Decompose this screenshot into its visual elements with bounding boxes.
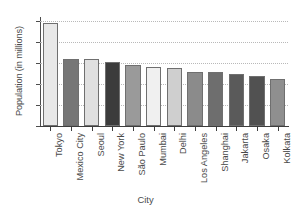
x-tick-mark: [71, 126, 72, 131]
y-tick-mark: [36, 105, 40, 106]
x-tick-label: São Paulo: [137, 133, 147, 175]
bar[interactable]: [187, 72, 202, 126]
gridline: [40, 42, 288, 43]
bar[interactable]: [229, 74, 244, 127]
plot-area: [40, 18, 288, 126]
bar[interactable]: [63, 59, 78, 127]
x-tick-label: Shanghai: [220, 133, 230, 172]
x-axis-line: [40, 126, 289, 127]
x-tick-label: Jakarta: [240, 133, 250, 163]
x-tick-label: Seoul: [96, 133, 106, 157]
bar[interactable]: [105, 62, 120, 126]
x-tick-label: Mexico City: [75, 133, 85, 180]
y-tick-mark: [36, 84, 40, 85]
x-tick-mark: [154, 126, 155, 131]
x-tick-mark: [257, 126, 258, 131]
gridline: [40, 21, 288, 22]
bar[interactable]: [43, 23, 58, 127]
y-tick-mark: [36, 21, 40, 22]
bar[interactable]: [270, 79, 285, 126]
x-axis-title: City: [0, 194, 291, 205]
y-tick-mark: [36, 42, 40, 43]
bar[interactable]: [167, 68, 182, 126]
x-tick-label: Delhi: [178, 133, 188, 154]
bar[interactable]: [146, 67, 161, 126]
y-tick-mark: [36, 126, 40, 127]
x-tick-label: Los Angeles: [199, 133, 209, 183]
x-tick-mark: [236, 126, 237, 131]
x-tick-mark: [92, 126, 93, 131]
x-tick-label: New York: [116, 133, 126, 172]
x-tick-mark: [195, 126, 196, 131]
bar[interactable]: [249, 76, 264, 126]
x-tick-label: Kolkata: [282, 133, 291, 164]
bar[interactable]: [208, 72, 223, 126]
x-tick-mark: [216, 126, 217, 131]
x-tick-label: Osaka: [261, 133, 271, 160]
bar-chart: Population (in millions) City 0714212835…: [0, 0, 291, 222]
x-tick-mark: [112, 126, 113, 131]
x-tick-label: Tokyo: [54, 133, 64, 157]
y-tick-mark: [36, 63, 40, 64]
x-tick-mark: [50, 126, 51, 131]
bar[interactable]: [125, 65, 140, 126]
x-tick-label: Mumbai: [158, 133, 168, 166]
x-tick-mark: [133, 126, 134, 131]
y-axis-title: Population (in millions): [14, 11, 24, 131]
x-tick-mark: [278, 126, 279, 131]
bar[interactable]: [84, 59, 99, 126]
x-tick-mark: [174, 126, 175, 131]
